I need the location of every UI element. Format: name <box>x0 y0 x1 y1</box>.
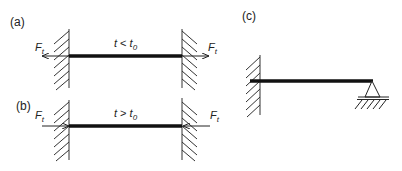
beam-diagram: (a) Ft Ft <box>0 0 402 171</box>
right-wall-a <box>182 29 197 90</box>
panel-a: (a) Ft Ft <box>10 15 218 90</box>
condition-label-a: t < t0 <box>114 37 138 52</box>
force-label-left-b: Ft <box>35 109 45 124</box>
force-label-right-b: Ft <box>210 109 220 124</box>
panel-b: (b) Ft Ft <box>16 98 220 161</box>
panel-c: (c) <box>242 9 389 117</box>
left-wall-b <box>54 100 69 161</box>
force-label-left-a: Ft <box>35 41 45 56</box>
panel-c-label: (c) <box>242 9 256 23</box>
panel-a-label: (a) <box>10 15 25 29</box>
right-wall-b <box>182 98 197 161</box>
pin-support-icon <box>355 81 389 109</box>
condition-label-b: t > t0 <box>114 107 138 122</box>
fixed-wall-c <box>246 55 260 117</box>
force-label-right-a: Ft <box>208 41 218 56</box>
panel-b-label: (b) <box>16 99 31 113</box>
left-wall-a <box>54 29 69 90</box>
